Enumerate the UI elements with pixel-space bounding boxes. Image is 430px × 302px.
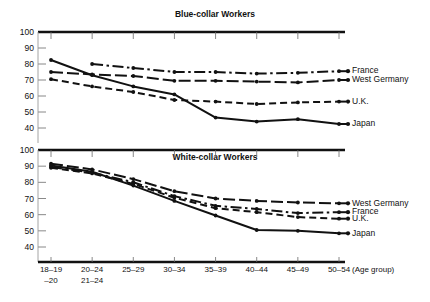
data-point (90, 62, 94, 66)
legend-endpoint-marker (346, 231, 350, 235)
series-line-france (51, 167, 339, 213)
legend-endpoint-marker (346, 69, 350, 73)
panel-title: Blue-collar Workers (175, 9, 255, 19)
legend-label-west-germany: West Germany (352, 74, 409, 84)
data-point (90, 73, 94, 77)
y-tick-label: 80 (25, 59, 35, 69)
data-point (131, 90, 135, 94)
data-point (255, 199, 259, 203)
series-line-japan (51, 165, 339, 233)
data-point (255, 120, 259, 124)
data-point (296, 211, 300, 215)
data-point (296, 101, 300, 105)
legend-endpoint-marker (346, 100, 350, 104)
y-tick-label: 60 (25, 210, 35, 220)
legend-endpoint-marker (346, 122, 350, 126)
data-point (214, 214, 218, 218)
data-point (131, 66, 135, 70)
y-tick-label: 40 (25, 123, 35, 133)
panel-blue-collar: Blue-collar Workers100908070605040France… (20, 9, 409, 143)
series-line-west-germany (51, 72, 339, 82)
panel-white-collar: White-collar Workers100908070605040West … (20, 145, 409, 262)
panel-title: White-collar Workers (173, 152, 258, 162)
data-point (296, 229, 300, 233)
legend-endpoint-marker (346, 201, 350, 205)
x-tick-label: 40–44 (246, 265, 269, 274)
y-tick-label: 50 (25, 226, 35, 236)
series-line-west-germany (51, 164, 339, 204)
x-tick-label: 45–49 (287, 265, 310, 274)
chart-canvas: Blue-collar Workers100908070605040France… (0, 0, 430, 302)
y-tick-label: 90 (25, 161, 35, 171)
y-tick-label: 50 (25, 107, 35, 117)
data-point (131, 74, 135, 78)
legend-label-japan: Japan (352, 228, 375, 238)
y-tick-label: 60 (25, 91, 35, 101)
data-point (296, 117, 300, 121)
data-point (214, 197, 218, 201)
x-tick-label: 35–39 (204, 265, 227, 274)
data-point (214, 79, 218, 83)
legend-endpoint-marker (346, 217, 350, 221)
data-point (131, 85, 135, 89)
data-point (214, 70, 218, 74)
y-tick-label: 100 (20, 145, 34, 155)
legend-label-japan: Japan (352, 118, 375, 128)
data-point (173, 199, 177, 203)
x-tick-label: 50–54 (328, 265, 351, 274)
data-point (214, 116, 218, 120)
data-point (255, 210, 259, 214)
data-point (296, 201, 300, 205)
y-tick-label: 40 (25, 242, 35, 252)
y-tick-label: 100 (20, 27, 34, 37)
data-point (90, 170, 94, 174)
data-point (173, 79, 177, 83)
data-point (49, 70, 53, 74)
x-tick-label-second-line: –20 (44, 276, 58, 285)
x-tick-label: 18–19 (40, 265, 63, 274)
data-point (296, 215, 300, 219)
shared-x-axis: 18–1920–2425–2930–3435–3940–4445–4950–54… (38, 257, 395, 285)
y-tick-label: 90 (25, 43, 35, 53)
data-point (214, 206, 218, 210)
data-point (90, 85, 94, 89)
data-point (255, 72, 259, 76)
data-point (255, 228, 259, 232)
y-tick-label: 70 (25, 194, 35, 204)
legend-label-u-k: U.K. (352, 96, 369, 106)
data-point (255, 102, 259, 106)
data-point (173, 98, 177, 102)
data-point (49, 77, 53, 81)
data-point (296, 81, 300, 85)
x-tick-label: 20–24 (81, 265, 104, 274)
data-point (173, 189, 177, 193)
series-line-u-k (51, 168, 339, 219)
x-tick-label: 30–34 (163, 265, 186, 274)
legend-label-u-k: U.K. (352, 213, 369, 223)
data-point (131, 184, 135, 188)
legend-endpoint-marker (346, 78, 350, 82)
y-tick-label: 70 (25, 75, 35, 85)
x-tick-label-second-line: 21–24 (81, 276, 104, 285)
x-tick-label: 25–29 (122, 265, 145, 274)
x-axis-unit-note: (Age group) (352, 265, 395, 274)
y-tick-label: 80 (25, 177, 35, 187)
data-point (49, 164, 53, 168)
series-line-japan (51, 60, 339, 124)
data-point (173, 70, 177, 74)
data-point (173, 93, 177, 97)
data-point (255, 80, 259, 84)
two-panel-line-chart-figure: Blue-collar Workers100908070605040France… (0, 0, 430, 302)
data-point (49, 58, 53, 62)
data-point (296, 71, 300, 75)
legend-endpoint-marker (346, 210, 350, 214)
data-point (214, 100, 218, 104)
